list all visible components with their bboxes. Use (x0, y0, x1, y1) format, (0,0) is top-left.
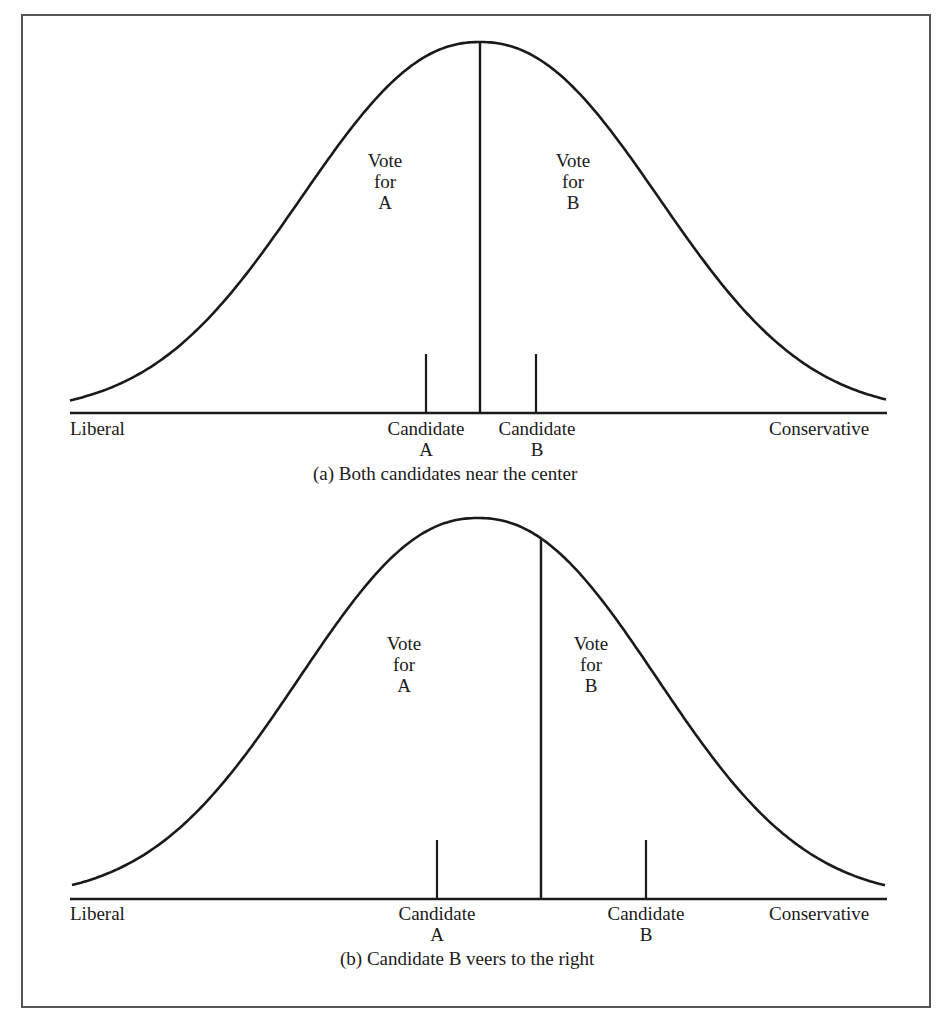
distribution-diagram (0, 0, 950, 1027)
vote-for-a-label-a: VoteforA (350, 150, 420, 213)
candidate-b-label-b: CandidateB (596, 903, 696, 945)
candidate-a-label-a: CandidateA (376, 418, 476, 460)
vote-for-b-label-b: VoteforB (556, 633, 626, 696)
vote-for-a-label-b: VoteforA (369, 633, 439, 696)
axis-left-label-a: Liberal (70, 418, 125, 439)
axis-left-label-b: Liberal (70, 903, 125, 924)
panel-b-caption: (b) Candidate B veers to the right (340, 948, 594, 970)
candidate-a-label-b: CandidateA (387, 903, 487, 945)
axis-right-label-a: Conservative (769, 418, 869, 439)
voter-distribution-curve-b (72, 518, 885, 885)
axis-right-label-b: Conservative (769, 903, 869, 924)
panel-a-caption: (a) Both candidates near the center (313, 463, 577, 485)
vote-for-b-label-a: VoteforB (538, 150, 608, 213)
candidate-b-label-a: CandidateB (487, 418, 587, 460)
voter-distribution-curve-a (70, 42, 886, 400)
